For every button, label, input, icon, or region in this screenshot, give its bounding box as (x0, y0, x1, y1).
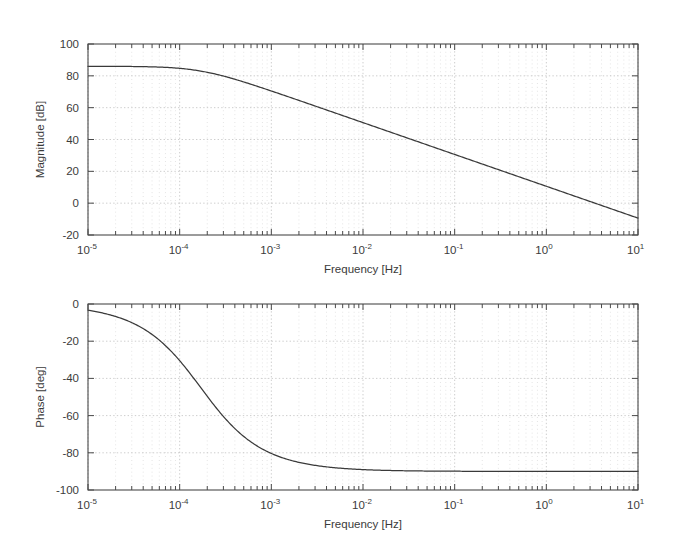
x-tick-label: 10-4 (169, 497, 189, 511)
x-tick-label: 100 (535, 497, 553, 511)
x-tick-label: 10-5 (77, 497, 97, 511)
x-axis-label: Frequency [Hz] (324, 518, 402, 530)
figure-canvas: 10-510-410-310-210-1100101-2002040608010… (0, 0, 675, 554)
x-tick-label: 10-3 (260, 497, 280, 511)
y-tick-label: 0 (73, 298, 79, 310)
x-tick-label: 10-1 (444, 497, 464, 511)
x-tick-label: 10-5 (77, 242, 97, 256)
x-axis-label: Frequency [Hz] (324, 263, 402, 275)
y-tick-label: -100 (56, 484, 79, 496)
y-tick-label: -80 (62, 447, 79, 459)
x-tick-label: 100 (535, 242, 553, 256)
y-tick-label: 0 (73, 197, 79, 209)
y-tick-label: 20 (66, 165, 79, 177)
y-axis-label: Magnitude [dB] (34, 101, 46, 178)
x-tick-label: 101 (627, 242, 645, 256)
x-tick-label: 101 (627, 497, 645, 511)
x-tick-label: 10-4 (169, 242, 189, 256)
y-tick-label: 60 (66, 102, 79, 114)
x-tick-label: 10-2 (352, 242, 372, 256)
x-tick-label: 10-3 (260, 242, 280, 256)
x-tick-label: 10-1 (444, 242, 464, 256)
bode-plot-figure: 10-510-410-310-210-1100101-2002040608010… (0, 0, 675, 554)
y-tick-label: -60 (62, 410, 79, 422)
y-tick-label: -40 (62, 372, 79, 384)
y-tick-label: 80 (66, 70, 79, 82)
y-axis-label: Phase [deg] (34, 366, 46, 427)
y-tick-label: 40 (66, 134, 79, 146)
phase-panel: 10-510-410-310-210-1100101-100-80-60-40-… (34, 298, 645, 530)
y-tick-label: -20 (62, 335, 79, 347)
x-tick-label: 10-2 (352, 497, 372, 511)
y-tick-label: -20 (62, 229, 79, 241)
y-tick-label: 100 (60, 38, 79, 50)
magnitude-panel: 10-510-410-310-210-1100101-2002040608010… (34, 38, 645, 275)
